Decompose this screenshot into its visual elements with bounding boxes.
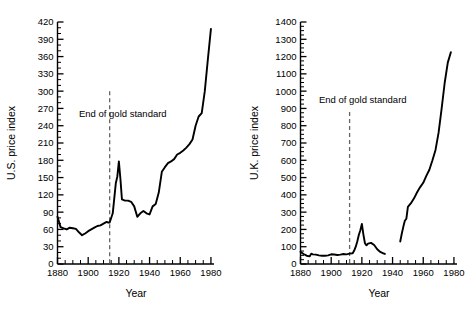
x-tick-label: 1900 <box>321 267 342 278</box>
y-tick-label: 390 <box>38 34 54 45</box>
us-x-axis-title: Year <box>125 287 147 299</box>
x-tick-label: 1940 <box>139 267 160 278</box>
y-tick-label: 800 <box>281 120 297 131</box>
y-tick-label: 900 <box>281 103 297 114</box>
y-tick-label: 1300 <box>275 34 296 45</box>
y-tick-label: 30 <box>43 241 54 252</box>
x-tick-label: 1880 <box>290 267 311 278</box>
uk-y-tick-group: 0100200300400500600700800900100011001200… <box>275 16 306 269</box>
x-tick-label: 1960 <box>170 267 191 278</box>
x-tick-label: 1980 <box>443 267 464 278</box>
x-tick-label: 1880 <box>47 267 68 278</box>
y-tick-label: 100 <box>281 241 297 252</box>
chart-panel-us: 0306090120150180210240270300330360390420… <box>0 0 236 311</box>
uk-y-axis-title: U.K. price index <box>248 105 260 180</box>
y-tick-label: 500 <box>281 172 297 183</box>
x-tick-label: 1920 <box>351 267 372 278</box>
uk-gold-standard-annotation-label: End of gold standard <box>319 94 407 105</box>
y-tick-label: 300 <box>38 86 54 97</box>
us-gold-standard-annotation-label: End of gold standard <box>79 108 167 119</box>
us-y-axis-title: U.S. price index <box>5 105 17 180</box>
y-tick-label: 240 <box>38 120 54 131</box>
y-tick-label: 180 <box>38 155 54 166</box>
x-tick-label: 1940 <box>382 267 403 278</box>
us-chart-svg: 0306090120150180210240270300330360390420… <box>0 0 236 311</box>
uk-x-axis-title: Year <box>368 287 390 299</box>
uk-price-index-line-postwar <box>400 52 451 241</box>
y-tick-label: 1200 <box>275 51 296 62</box>
y-tick-label: 270 <box>38 103 54 114</box>
x-tick-label: 1960 <box>413 267 434 278</box>
y-tick-label: 200 <box>281 224 297 235</box>
y-tick-label: 210 <box>38 137 54 148</box>
y-tick-label: 150 <box>38 172 54 183</box>
y-tick-label: 360 <box>38 51 54 62</box>
y-tick-label: 90 <box>43 207 54 218</box>
y-tick-label: 1000 <box>275 86 296 97</box>
figure-two-panel-price-index: 0306090120150180210240270300330360390420… <box>0 0 472 311</box>
us-price-index-line <box>58 29 211 235</box>
y-tick-label: 330 <box>38 68 54 79</box>
x-tick-label: 1980 <box>200 267 221 278</box>
y-tick-label: 1100 <box>276 68 296 79</box>
x-tick-label: 1920 <box>108 267 129 278</box>
x-tick-label: 1900 <box>78 267 99 278</box>
y-tick-label: 300 <box>281 207 297 218</box>
y-tick-label: 420 <box>38 16 54 27</box>
y-tick-label: 700 <box>281 137 297 148</box>
y-tick-label: 600 <box>281 155 297 166</box>
us-y-tick-group: 0306090120150180210240270300330360390420 <box>38 16 64 269</box>
uk-price-index-line-prewar <box>301 224 385 256</box>
chart-panel-uk: 0100200300400500600700800900100011001200… <box>236 0 472 311</box>
y-tick-label: 120 <box>38 189 54 200</box>
y-tick-label: 1400 <box>275 16 296 27</box>
uk-chart-svg: 0100200300400500600700800900100011001200… <box>236 0 472 311</box>
y-tick-label: 400 <box>281 189 297 200</box>
y-tick-label: 60 <box>43 224 54 235</box>
